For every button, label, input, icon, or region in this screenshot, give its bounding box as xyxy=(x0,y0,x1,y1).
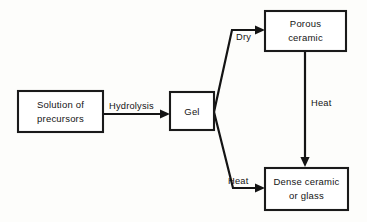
dense-ceramic-or-glass-label-line2: or glass xyxy=(289,190,324,201)
node-gel: Gel xyxy=(170,92,214,130)
solution-of-precursors-box xyxy=(18,91,103,132)
gel-label-line1: Gel xyxy=(184,106,199,117)
hydrolysis-arrowhead xyxy=(160,109,170,118)
edge-heat-branch: Heat xyxy=(214,112,265,193)
edge-hydrolysis: Hydrolysis xyxy=(103,101,170,119)
edge-heat-vertical: Heat xyxy=(300,51,331,167)
heat-branch-arrowhead xyxy=(255,183,265,192)
heat-vertical-arrowhead xyxy=(300,157,309,167)
flow-diagram-canvas: Hydrolysis Dry Heat Heat Solution of pre… xyxy=(0,0,367,222)
porous-ceramic-label-line1: Porous xyxy=(290,18,321,29)
solution-of-precursors-label-line1: Solution of xyxy=(37,99,84,110)
solution-of-precursors-label-line2: precursors xyxy=(37,113,84,124)
dry-arrowhead xyxy=(255,25,265,34)
edge-dry: Dry xyxy=(214,25,265,112)
heat-branch-label: Heat xyxy=(228,176,249,186)
dense-ceramic-or-glass-label-line1: Dense ceramic xyxy=(274,176,340,187)
hydrolysis-label: Hydrolysis xyxy=(109,101,154,111)
dry-line xyxy=(214,30,261,112)
porous-ceramic-label-line2: ceramic xyxy=(288,32,323,43)
node-dense-ceramic-or-glass: Dense ceramic or glass xyxy=(265,168,348,210)
dry-label: Dry xyxy=(236,32,251,42)
flow-diagram-svg: Hydrolysis Dry Heat Heat Solution of pre… xyxy=(0,0,367,222)
node-solution-of-precursors: Solution of precursors xyxy=(18,91,103,132)
node-porous-ceramic: Porous ceramic xyxy=(265,11,346,51)
heat-vertical-label: Heat xyxy=(311,98,332,108)
